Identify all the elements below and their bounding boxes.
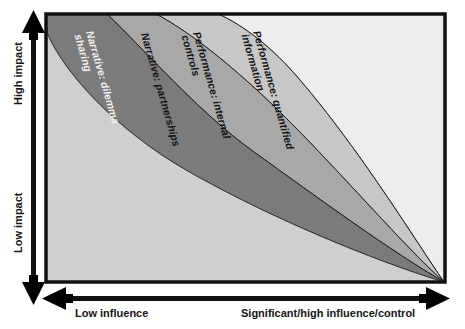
y-axis-arrow-head-up <box>22 10 45 40</box>
y-axis-high-label-text: High impact <box>12 42 24 105</box>
diagram-canvas: Narrative: dilemma sharing Narrative: pa… <box>0 0 465 329</box>
impact-influence-diagram: Narrative: dilemma sharing Narrative: pa… <box>0 0 465 329</box>
y-axis-low-label-text: Low impact <box>12 192 24 253</box>
x-axis-arrow-head-left <box>42 287 73 310</box>
x-axis-arrow-head-right <box>419 287 450 310</box>
x-axis-low-label-text: Low influence <box>75 307 148 319</box>
y-axis-label-low-impact: Low impact <box>12 192 24 253</box>
y-axis-arrow <box>22 10 45 305</box>
x-axis-high-label-text: Significant/high influence/control <box>241 307 415 319</box>
y-axis-label-high-impact: High impact <box>12 42 24 105</box>
y-axis-arrow-head-down <box>22 275 45 305</box>
